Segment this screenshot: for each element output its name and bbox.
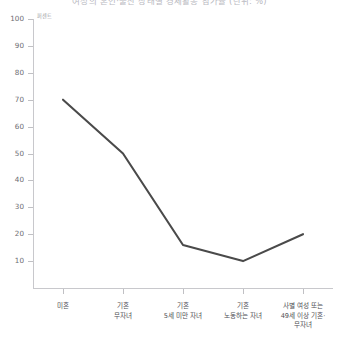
chart-figure: 여성의 혼인·출산 상태별 경제활동 참가율 (단위: %) 퍼센트 10203… [0,0,339,350]
data-line-series [0,0,339,350]
